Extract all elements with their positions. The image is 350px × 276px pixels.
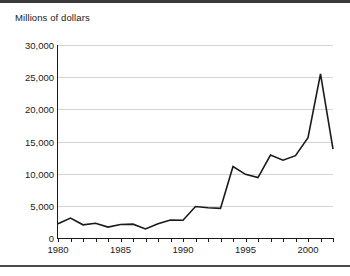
y-axis-tick-labels: 30,00025,00020,00015,00010,0005,0000 (0, 45, 54, 238)
x-tick-label: 1995 (235, 244, 256, 255)
x-tick (158, 238, 159, 242)
x-tick (183, 238, 184, 242)
x-tick (133, 238, 134, 242)
x-tick (108, 238, 109, 242)
top-rule (0, 0, 350, 3)
x-tick (196, 238, 197, 242)
y-tick-label: 20,000 (25, 104, 54, 115)
y-axis-title: Millions of dollars (15, 12, 90, 23)
x-tick-label: 1990 (172, 244, 193, 255)
x-tick-label: 1980 (47, 244, 68, 255)
x-tick (58, 238, 59, 242)
x-tick (271, 238, 272, 242)
y-tick-label: 25,000 (25, 72, 54, 83)
x-tick (146, 238, 147, 242)
x-tick (308, 238, 309, 242)
x-tick (83, 238, 84, 242)
y-tick-label: 5,000 (30, 200, 54, 211)
plot-area: 19801985199019952000 (58, 45, 333, 238)
x-tick (208, 238, 209, 242)
x-tick (246, 238, 247, 242)
y-tick-label: 10,000 (25, 168, 54, 179)
x-tick (171, 238, 172, 242)
x-tick (71, 238, 72, 242)
x-tick (258, 238, 259, 242)
y-tick-label: 15,000 (25, 136, 54, 147)
data-series-line (58, 45, 333, 238)
x-tick-label: 1985 (110, 244, 131, 255)
bottom-rule (0, 265, 350, 267)
x-tick (333, 238, 334, 242)
x-tick (221, 238, 222, 242)
x-tick-label: 2000 (297, 244, 318, 255)
x-tick (233, 238, 234, 242)
y-tick-label: 30,000 (25, 40, 54, 51)
y-tick-label: 0 (49, 233, 54, 244)
x-tick (96, 238, 97, 242)
x-tick (296, 238, 297, 242)
chart-figure: Millions of dollars 30,00025,00020,00015… (0, 0, 350, 276)
x-tick (321, 238, 322, 242)
x-tick (121, 238, 122, 242)
x-tick (283, 238, 284, 242)
